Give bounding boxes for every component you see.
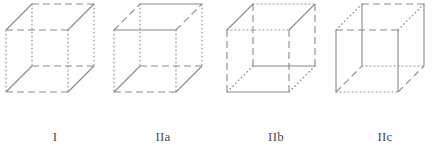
cube-edge-top-right-diagonal xyxy=(68,4,94,30)
cube-edge-top-left-diagonal xyxy=(114,4,140,30)
cube-wireframe-IIb xyxy=(221,0,331,125)
cube-edge-bottom-left-diagonal xyxy=(114,66,140,92)
cube-wireframe-IIa xyxy=(108,0,218,125)
cube-edge-bottom-left-diagonal xyxy=(336,66,362,92)
cube-label-I: I xyxy=(0,128,110,146)
cube-edge-top-left-diagonal xyxy=(6,4,32,30)
cube-edge-top-left-diagonal xyxy=(336,4,362,30)
cube-edge-top-left-diagonal xyxy=(227,4,253,30)
cube-wireframe-IIc xyxy=(330,0,440,125)
cube-figure-panel: I IIa IIb IIc xyxy=(0,0,440,168)
cube-edge-bottom-left-diagonal xyxy=(6,66,32,92)
cube-wireframe-I xyxy=(0,0,110,125)
cube-edge-bottom-right-diagonal xyxy=(68,66,94,92)
cube-label-IIa: IIa xyxy=(108,128,218,146)
cube-edge-top-right-diagonal xyxy=(398,4,424,30)
cube-edge-bottom-right-diagonal xyxy=(289,66,315,92)
cube-figure-IIb xyxy=(221,0,331,125)
cube-edge-bottom-right-diagonal xyxy=(176,66,202,92)
cube-figure-IIc xyxy=(330,0,440,125)
cube-edge-top-right-diagonal xyxy=(289,4,315,30)
cube-edge-top-right-diagonal xyxy=(176,4,202,30)
cube-label-IIb: IIb xyxy=(221,128,331,146)
cube-edge-bottom-left-diagonal xyxy=(227,66,253,92)
cube-figure-IIa xyxy=(108,0,218,125)
cube-edge-bottom-right-diagonal xyxy=(398,66,424,92)
cube-figure-I xyxy=(0,0,110,125)
cube-label-IIc: IIc xyxy=(330,128,440,146)
